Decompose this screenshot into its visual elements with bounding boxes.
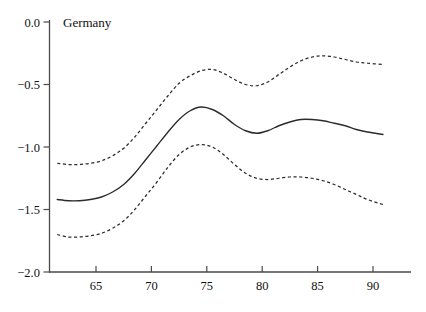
y-tick-label: 0.0 — [24, 16, 40, 30]
series-upper-confidence-band — [57, 56, 383, 165]
y-tick-label: −0.5 — [17, 78, 40, 92]
x-tick-label: 65 — [90, 279, 103, 293]
x-tick-label: 90 — [367, 279, 380, 293]
x-tick-label: 80 — [256, 279, 269, 293]
x-tick-label: 85 — [311, 279, 324, 293]
y-axis-ticks: 0.0−0.5−1.0−1.5−2.0 — [17, 16, 49, 280]
x-axis-ticks: 657075808590 — [90, 266, 380, 293]
chart-title: Germany — [63, 15, 112, 30]
data-series-group — [57, 56, 383, 237]
series-estimate — [57, 107, 383, 201]
plot-axes — [49, 20, 411, 273]
x-tick-label: 70 — [145, 279, 158, 293]
series-lower-confidence-band — [57, 145, 383, 238]
chart-container: 0.0−0.5−1.0−1.5−2.0 657075808590 Germany — [0, 0, 426, 312]
germany-line-chart: 0.0−0.5−1.0−1.5−2.0 657075808590 Germany — [0, 0, 426, 312]
x-tick-label: 75 — [201, 279, 214, 293]
y-tick-label: −1.5 — [17, 203, 40, 217]
y-tick-label: −1.0 — [17, 141, 40, 155]
y-tick-label: −2.0 — [17, 266, 40, 280]
